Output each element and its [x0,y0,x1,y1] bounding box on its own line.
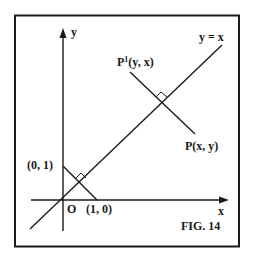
x-axis-arrow-icon [219,197,229,204]
right-angle-marker-upper [156,92,167,97]
perpendicular-unit-points [63,166,97,200]
y-axis-arrow-icon [60,28,67,38]
y-axis-label: y [71,26,77,38]
figure-caption: FIG. 14 [181,220,220,232]
point-label-0-1: (0, 1) [27,159,53,171]
point-label-p-prime: P1(y, x) [117,56,154,68]
point-label-p: P(x, y) [185,140,218,152]
p-prime-coords: (y, x) [128,55,153,69]
line-label-y-equals-x: y = x [199,31,224,43]
x-axis-label: x [218,205,224,217]
point-label-1-0: (1, 0) [86,203,112,215]
line-y-equals-x [30,45,222,229]
origin-label: O [67,203,76,215]
